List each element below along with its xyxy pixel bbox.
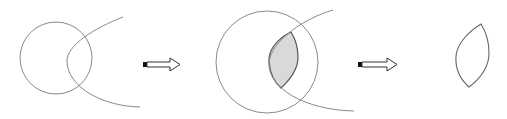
circle-shape	[20, 22, 92, 94]
circle-shape	[216, 11, 318, 113]
step-1-panel	[20, 17, 140, 107]
lens-shape	[456, 24, 489, 87]
arrow-2-icon	[358, 58, 397, 71]
step-2-panel	[216, 10, 354, 113]
diagram-canvas	[0, 0, 507, 119]
arrow-1-icon	[143, 58, 180, 71]
step-3-panel	[456, 24, 489, 87]
curve-shape	[67, 17, 140, 107]
